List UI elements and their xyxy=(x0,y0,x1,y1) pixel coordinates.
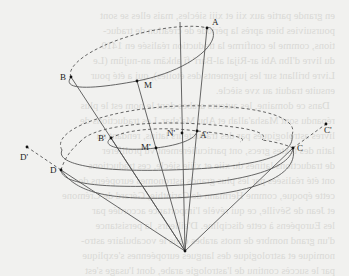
line-d-vertex xyxy=(61,170,185,251)
point-b xyxy=(70,76,73,79)
label-n-prime: N' xyxy=(167,128,175,138)
point-vertex xyxy=(184,250,187,253)
top-ellipse-back xyxy=(70,26,207,77)
line-c-vertex xyxy=(185,148,293,251)
cone-diagram: A B M B' M' N' A' C C' D D' xyxy=(0,0,349,276)
label-a: A xyxy=(212,17,219,27)
label-c-prime: C' xyxy=(324,125,332,135)
label-a-prime: A' xyxy=(200,130,208,140)
label-c: C xyxy=(297,143,303,153)
large-ellipse-front xyxy=(61,135,292,170)
point-m-prime xyxy=(155,147,158,150)
middle-ellipse-back xyxy=(111,129,243,142)
large-ellipse-back xyxy=(60,106,292,150)
line-bprime-vertex xyxy=(111,138,185,251)
label-m: M xyxy=(144,80,152,90)
point-m xyxy=(136,80,139,83)
vertical-axis xyxy=(180,22,185,251)
point-c xyxy=(292,147,295,150)
dc-dashed-arc xyxy=(61,142,80,170)
label-d: D xyxy=(50,165,57,175)
point-d xyxy=(60,169,63,172)
point-b-prime xyxy=(110,137,113,140)
point-a-prime xyxy=(196,130,199,133)
point-n-prime xyxy=(181,132,184,135)
label-b-prime: B' xyxy=(98,133,106,143)
point-d-prime xyxy=(26,146,29,149)
label-m-prime: M' xyxy=(141,142,151,152)
label-b: B xyxy=(60,72,66,82)
label-d-prime: D' xyxy=(20,152,28,162)
point-a xyxy=(206,27,209,30)
top-ellipse-front xyxy=(69,27,213,87)
